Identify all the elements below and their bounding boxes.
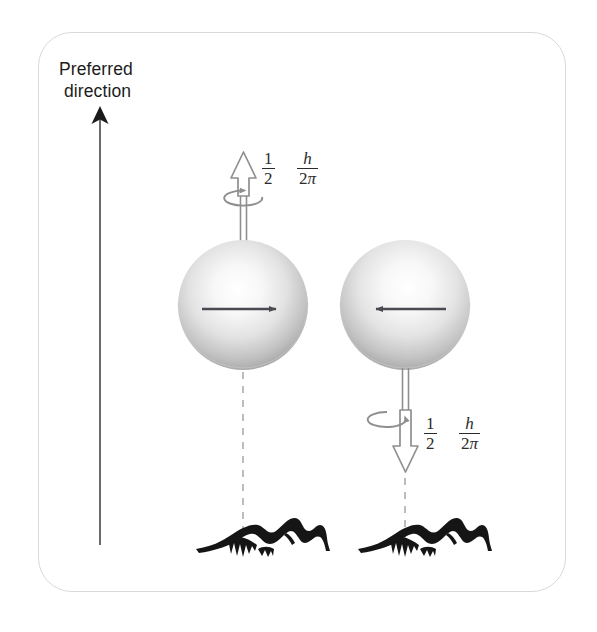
spin-coefficient-right-denominator: 2 <box>424 433 437 452</box>
sphere-left <box>178 240 308 370</box>
spin-coefficient-right-numerator: 1 <box>424 415 437 433</box>
spin-quantity-left-denominator: 2π <box>297 168 318 187</box>
spin-coefficient-left: 1 2 <box>262 150 275 187</box>
spin-coefficient-left-numerator: 1 <box>262 150 275 168</box>
particle-left <box>178 152 330 557</box>
spin-quantity-left-numerator: h <box>297 150 318 168</box>
spin-quantity-right: h 2π <box>459 415 480 452</box>
preferred-direction-arrow <box>92 106 109 545</box>
spin-coefficient-left-denominator: 2 <box>262 168 275 187</box>
spin-quantity-left: h 2π <box>297 150 318 187</box>
spin-quantity-right-numerator: h <box>459 415 480 433</box>
spin-quantity-left-den-prefix: 2 <box>299 169 308 188</box>
spin-axis-shaft-right <box>403 368 409 410</box>
sphere-right <box>340 240 470 370</box>
spin-up-arrow-left <box>231 152 256 196</box>
mountain-range-sketch-left <box>196 518 330 557</box>
spin-coefficient-right: 1 2 <box>424 415 437 452</box>
spin-quantity-left-den-symbol: π <box>308 169 317 188</box>
diagram-canvas <box>0 0 597 632</box>
spin-diagram-figure: Preferred direction <box>0 0 597 632</box>
mountain-range-sketch-right <box>358 518 492 557</box>
particle-right <box>340 240 492 557</box>
spin-quantity-right-denominator: 2π <box>459 433 480 452</box>
spin-quantity-right-den-prefix: 2 <box>461 434 470 453</box>
spin-quantity-right-den-symbol: π <box>470 434 479 453</box>
